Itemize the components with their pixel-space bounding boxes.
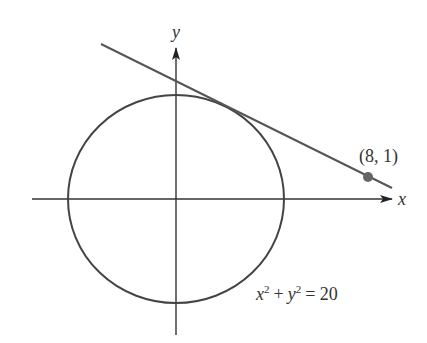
tangent-line: [101, 44, 392, 188]
point-label: (8, 1): [359, 146, 398, 167]
tangent-diagram: y x (8, 1) x2+y2= 20: [0, 0, 427, 343]
circle-equation: x2+y2= 20: [255, 283, 338, 304]
eq-x: x: [255, 284, 264, 304]
eq-equals-value: = 20: [305, 284, 338, 304]
y-axis-label: y: [170, 22, 180, 42]
x-axis-label: x: [397, 189, 406, 209]
eq-plus: +: [274, 284, 284, 304]
point-marker: [363, 172, 373, 182]
eq-sup-y: 2: [296, 283, 302, 295]
eq-sup-x: 2: [264, 283, 270, 295]
eq-y: y: [286, 284, 296, 304]
